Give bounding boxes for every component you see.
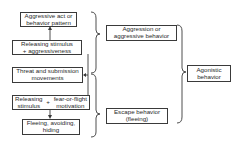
agonistic-box: Agonistic behavior [187, 65, 231, 82]
releasing-fear-right-line2: motivation [54, 103, 87, 110]
brace-escape [91, 74, 100, 137]
aggression-box: Aggression or aggressive behavior [106, 25, 177, 41]
aggressive-act-box: Aggressive act or behavior pattern [20, 12, 77, 27]
releasing-fear-left-line2: stimulus [15, 103, 43, 110]
releasing-fear-box: Releasing stimulus + fear-or-flight moti… [12, 95, 90, 110]
arrow-left-head [83, 73, 86, 77]
releasing-fear-right: fear-or-flight motivation [54, 96, 87, 109]
fleeing-line2: hiding [43, 127, 60, 134]
plus-sign: + [46, 99, 50, 106]
releasing-aggr-line2: + aggressiveness [23, 48, 71, 55]
threat-submission-box: Threat and submission movements [12, 67, 83, 83]
fleeing-box: Fleeing, avoiding, hiding [22, 119, 80, 135]
brace-aggression [91, 12, 100, 73]
agonistic-line2: behavior [197, 74, 221, 81]
escape-line2: (fleeing) [126, 116, 148, 123]
aggressive-act-line2: behavior pattern [26, 20, 71, 27]
releasing-aggressiveness-box: Releasing stimulus + aggressiveness [12, 40, 82, 55]
escape-box: Escape behavior (fleeing) [106, 108, 168, 124]
aggression-line2: aggressive behavior [114, 33, 169, 40]
threat-line2: movements [32, 75, 64, 82]
releasing-fear-left: Releasing stimulus [15, 96, 43, 109]
brace-agonistic [177, 25, 186, 123]
